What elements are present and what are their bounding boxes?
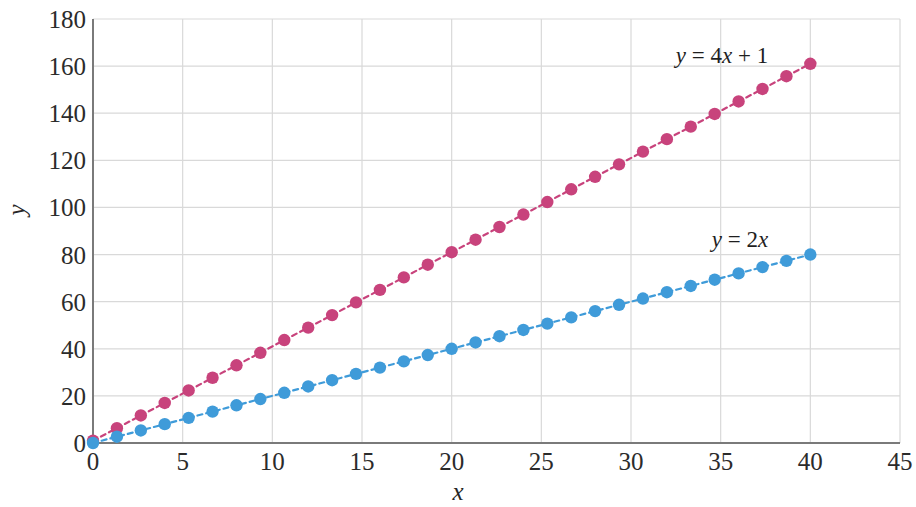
data-point: [493, 221, 505, 233]
data-point: [756, 261, 768, 273]
data-point: [517, 208, 529, 220]
data-point: [230, 399, 242, 411]
data-point: [589, 305, 601, 317]
data-point: [685, 280, 697, 292]
data-point: [661, 286, 673, 298]
data-point: [254, 393, 266, 405]
data-point: [422, 349, 434, 361]
data-point: [135, 424, 147, 436]
data-point: [469, 336, 481, 348]
data-point: [350, 368, 362, 380]
data-point: [326, 309, 338, 321]
data-point: [517, 324, 529, 336]
data-point: [708, 108, 720, 120]
data-point: [445, 343, 457, 355]
data-point: [637, 145, 649, 157]
data-point: [780, 255, 792, 267]
data-point: [565, 311, 577, 323]
data-point: [159, 397, 171, 409]
data-point: [445, 246, 457, 258]
series-annotation-1: y = 2x: [712, 227, 768, 253]
series-annotation-0: y = 4x + 1: [676, 43, 768, 69]
data-point: [685, 120, 697, 132]
data-point: [302, 380, 314, 392]
data-point: [565, 183, 577, 195]
data-point: [422, 258, 434, 270]
data-point: [469, 234, 481, 246]
data-point: [661, 133, 673, 145]
data-point: [613, 299, 625, 311]
data-point: [159, 418, 171, 430]
data-point: [87, 437, 99, 449]
data-point: [326, 374, 338, 386]
data-point: [398, 271, 410, 283]
data-point: [182, 412, 194, 424]
data-point: [732, 95, 744, 107]
data-point: [230, 359, 242, 371]
data-point: [374, 284, 386, 296]
data-point: [278, 334, 290, 346]
data-point: [613, 158, 625, 170]
data-point: [493, 330, 505, 342]
data-point: [541, 317, 553, 329]
data-point: [374, 361, 386, 373]
data-point: [804, 58, 816, 70]
data-point: [708, 273, 720, 285]
data-point: [541, 196, 553, 208]
data-point: [780, 70, 792, 82]
data-point: [254, 347, 266, 359]
data-point: [732, 267, 744, 279]
chart-container: y x 020406080100120140160180 05101520253…: [0, 0, 916, 507]
data-point: [398, 355, 410, 367]
data-point: [637, 292, 649, 304]
data-point: [804, 248, 816, 260]
data-point: [756, 83, 768, 95]
data-point: [206, 372, 218, 384]
data-point: [182, 384, 194, 396]
plot-area: [0, 0, 916, 507]
data-point: [589, 171, 601, 183]
data-point: [206, 405, 218, 417]
data-point: [302, 321, 314, 333]
data-point: [350, 296, 362, 308]
data-point: [278, 387, 290, 399]
data-point: [111, 431, 123, 443]
data-point: [135, 409, 147, 421]
